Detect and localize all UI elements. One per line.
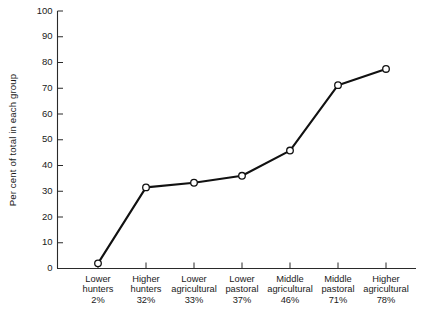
y-tick-label: 20 [42,211,53,222]
y-tick-label: 60 [42,108,53,119]
x-tick-label-line2: pastoral [321,284,354,294]
data-point-marker [143,184,150,191]
data-series [95,66,390,267]
x-tick-label-percent: 2% [91,295,104,305]
data-point-marker [287,147,294,154]
x-tick-label-line2: agricultural [267,284,312,294]
x-tick-label-percent: 37% [233,295,252,305]
y-tick-label: 30 [42,185,53,196]
x-tick-label-line2: agricultural [363,284,408,294]
data-point-marker [383,66,390,73]
y-tick-label: 70 [42,82,53,93]
x-tick-label-line1: Middle [276,274,303,284]
x-tick-label-line2: hunters [130,284,161,294]
data-point-marker [335,82,342,89]
x-tick-label-line1: Middle [324,274,351,284]
x-tick-label-line2: pastoral [225,284,258,294]
y-axis-tick-labels: 0102030405060708090100 [37,5,53,274]
y-tick-label: 90 [42,30,53,41]
y-tick-label: 40 [42,159,53,170]
x-tick-label-line1: Lower [181,274,206,284]
y-tick-label: 10 [42,236,53,247]
y-tick-label: 80 [42,56,53,67]
x-tick-label-percent: 33% [185,295,204,305]
y-tick-label: 50 [42,133,53,144]
y-tick-label: 100 [37,5,53,16]
chart-container: 0102030405060708090100 Lowerhunters2%Hig… [0,0,435,309]
data-point-marker [191,179,198,186]
x-tick-label-percent: 78% [377,295,396,305]
y-axis-title-text: Per cent of total in each group [7,74,18,207]
y-tick-label: 0 [47,262,52,273]
series-line [98,69,386,263]
y-axis-ticks [58,11,64,269]
x-tick-label-percent: 71% [329,295,348,305]
x-tick-label-line1: Lower [85,274,110,284]
x-tick-label-line2: hunters [82,284,113,294]
x-tick-label-percent: 32% [137,295,156,305]
x-tick-label-line1: Lower [229,274,254,284]
data-point-marker [95,260,102,267]
line-chart: 0102030405060708090100 Lowerhunters2%Hig… [0,0,435,309]
data-point-markers [95,66,390,267]
x-tick-label-percent: 46% [281,295,300,305]
x-axis-tick-labels: Lowerhunters2%Higherhunters32%Loweragric… [82,274,408,305]
x-axis-ticks [98,263,386,269]
x-tick-label-line1: Higher [132,274,159,284]
x-tick-label-line1: Higher [372,274,399,284]
x-tick-label-line2: agricultural [171,284,216,294]
data-point-marker [239,173,246,180]
y-axis-title: Per cent of total in each group [7,74,18,207]
